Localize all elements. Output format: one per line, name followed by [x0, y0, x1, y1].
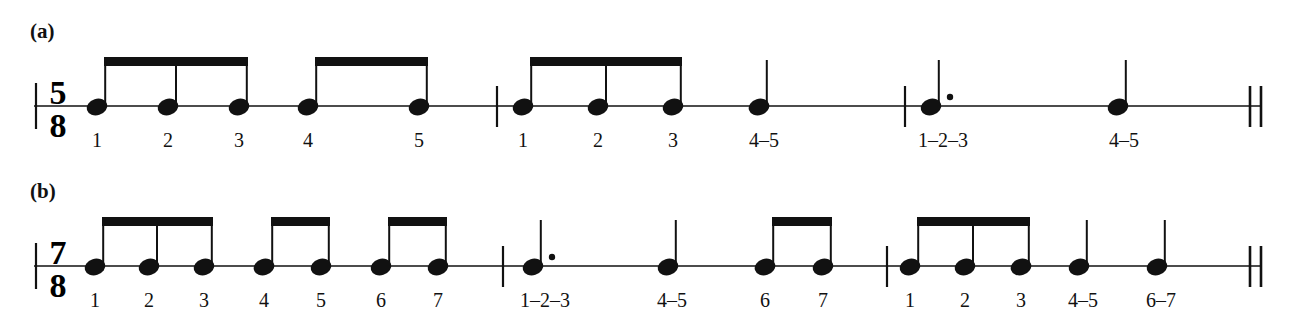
- count-a-m1-n3: 3: [234, 129, 244, 151]
- count-b-m1-n3: 3: [199, 289, 209, 311]
- time-signature-numerator: 5: [50, 74, 67, 111]
- system-b-time-signature: 7 8: [50, 234, 67, 304]
- count-a-m1-n5: 5: [414, 129, 424, 151]
- time-signature-denominator: 8: [50, 267, 67, 304]
- count-b-m2-n1: 1–2–3: [520, 289, 570, 311]
- count-a-m2-n3: 3: [668, 129, 678, 151]
- system-a: (a) 5 8 1 2 3 4: [30, 19, 1262, 151]
- system-b-measure-3: 1 2 3 4–5 6–7: [898, 217, 1176, 311]
- count-b-m2-n2: 4–5: [657, 289, 687, 311]
- augmentation-dot-a-m3-n1: [947, 94, 953, 100]
- count-b-m3-n4: 4–5: [1068, 289, 1098, 311]
- count-b-m2-n3: 6: [760, 289, 770, 311]
- count-b-m3-n2: 2: [960, 289, 970, 311]
- count-b-m1-n5: 5: [316, 289, 326, 311]
- count-b-m3-n5: 6–7: [1146, 289, 1176, 311]
- count-b-m1-n6: 6: [376, 289, 386, 311]
- count-b-m1-n1: 1: [90, 289, 100, 311]
- system-a-measure-2: 1 2 3 4–5: [511, 57, 779, 151]
- count-a-m2-n4: 4–5: [749, 129, 779, 151]
- rhythm-notation-figure: (a) 5 8 1 2 3 4: [0, 0, 1296, 330]
- time-signature-denominator: 8: [50, 107, 67, 144]
- count-a-m1-n4: 4: [303, 129, 313, 151]
- count-b-m3-n1: 1: [905, 289, 915, 311]
- system-b-measure-1: 1 2 3 4 5 6 7: [83, 217, 451, 311]
- beam-b-m2-g1: [772, 217, 832, 226]
- count-a-m2-n2: 2: [593, 129, 603, 151]
- count-a-m1-n1: 1: [92, 129, 102, 151]
- system-b: (b) 7 8: [30, 179, 1262, 311]
- augmentation-dot-b-m2-n1: [549, 254, 555, 260]
- time-signature-numerator: 7: [50, 234, 67, 271]
- count-b-m1-n2: 2: [144, 289, 154, 311]
- system-b-label: (b): [30, 179, 56, 203]
- count-a-m3-n1: 1–2–3: [918, 129, 968, 151]
- count-a-m2-n1: 1: [518, 129, 528, 151]
- system-b-measure-2: 1–2–3 4–5 6 7: [520, 217, 835, 311]
- count-b-m1-n4: 4: [259, 289, 269, 311]
- system-a-label: (a): [30, 19, 55, 43]
- system-a-time-signature: 5 8: [50, 74, 67, 144]
- count-b-m2-n4: 7: [818, 289, 828, 311]
- beam-b-m1-g2: [271, 217, 330, 226]
- system-a-measure-1: 1 2 3 4 5: [85, 57, 432, 151]
- count-a-m1-n2: 2: [163, 129, 173, 151]
- count-b-m3-n3: 3: [1016, 289, 1026, 311]
- beam-b-m1-g3: [388, 217, 447, 226]
- beam-a-m1-g2: [315, 57, 428, 66]
- count-a-m3-n2: 4–5: [1109, 129, 1139, 151]
- count-b-m1-n7: 7: [433, 289, 443, 311]
